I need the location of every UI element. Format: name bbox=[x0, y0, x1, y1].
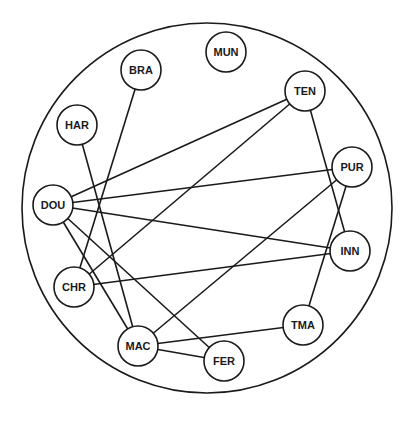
node-har: HAR bbox=[57, 105, 97, 145]
node-label: TMA bbox=[291, 319, 315, 331]
node-label: CHR bbox=[62, 281, 86, 293]
node-label: MAC bbox=[125, 340, 150, 352]
node-inn: INN bbox=[330, 231, 370, 271]
node-label: MUN bbox=[213, 46, 238, 58]
node-mac: MAC bbox=[118, 326, 158, 366]
node-label: PUR bbox=[340, 161, 363, 173]
edge-dou-ten bbox=[53, 91, 305, 205]
node-mun: MUN bbox=[206, 32, 246, 72]
node-label: FER bbox=[213, 355, 235, 367]
node-dou: DOU bbox=[33, 185, 73, 225]
edge-chr-ten bbox=[74, 91, 305, 287]
network-diagram: BRAMUNTENHARPURDOUINNCHRTMAMACFER bbox=[0, 0, 408, 421]
node-ten: TEN bbox=[285, 71, 325, 111]
node-chr: CHR bbox=[54, 267, 94, 307]
node-label: HAR bbox=[65, 119, 89, 131]
node-label: INN bbox=[341, 245, 360, 257]
node-pur: PUR bbox=[332, 147, 372, 187]
node-tma: TMA bbox=[283, 305, 323, 345]
node-label: BRA bbox=[129, 64, 153, 76]
node-label: TEN bbox=[294, 85, 316, 97]
edge-dou-inn bbox=[53, 205, 350, 251]
node-label: DOU bbox=[41, 199, 66, 211]
node-bra: BRA bbox=[121, 50, 161, 90]
node-fer: FER bbox=[204, 341, 244, 381]
edge-chr-inn bbox=[74, 251, 350, 287]
edge-dou-pur bbox=[53, 167, 352, 205]
nodes-layer: BRAMUNTENHARPURDOUINNCHRTMAMACFER bbox=[33, 32, 372, 381]
